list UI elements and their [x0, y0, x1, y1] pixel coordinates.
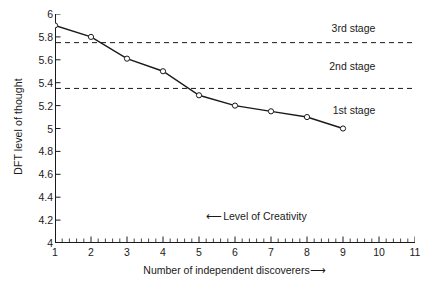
x-tick-label: 4: [149, 247, 177, 258]
annotation-level-of-creativity-label: Level of Creativity: [223, 210, 306, 222]
x-axis-label-text: Number of independent discoverers: [143, 264, 309, 276]
plot-area: [55, 14, 415, 243]
x-tick-label: 11: [401, 247, 429, 258]
x-tick-label: 5: [185, 247, 213, 258]
data-point-marker: [55, 23, 58, 28]
data-point-marker: [268, 109, 273, 114]
y-axis-major-ticks: [56, 14, 61, 243]
data-point-marker: [160, 69, 165, 74]
right-arrow-icon: ⟶: [310, 264, 325, 276]
data-point-markers: [55, 23, 346, 131]
plot-svg: [55, 14, 415, 243]
annotation-2nd-stage: 2nd stage: [329, 60, 375, 72]
x-tick-label: 2: [77, 247, 105, 258]
x-tick-label: 7: [257, 247, 285, 258]
annotation-level-of-creativity: ⟵Level of Creativity: [206, 210, 306, 222]
left-arrow-icon: ⟵: [206, 210, 221, 222]
x-tick-label: 10: [365, 247, 393, 258]
x-tick-label: 6: [221, 247, 249, 258]
data-point-marker: [124, 56, 129, 61]
annotation-1st-stage: 1st stage: [333, 104, 376, 116]
x-tick-label: 9: [329, 247, 357, 258]
data-point-marker: [196, 93, 201, 98]
x-axis-label: Number of independent discoverers⟶: [52, 264, 416, 276]
data-series-line: [55, 25, 343, 128]
x-axis-major-ticks: [55, 237, 415, 243]
x-tick-label: 3: [113, 247, 141, 258]
data-point-marker: [304, 114, 309, 119]
x-tick-label: 8: [293, 247, 321, 258]
data-point-marker: [232, 103, 237, 108]
chart-figure: DFT level of thought 65.85.65.45.254.84.…: [0, 0, 435, 285]
data-point-marker: [340, 126, 345, 131]
data-point-marker: [88, 34, 93, 39]
annotation-3rd-stage: 3rd stage: [332, 22, 376, 34]
x-tick-label: 1: [41, 247, 69, 258]
